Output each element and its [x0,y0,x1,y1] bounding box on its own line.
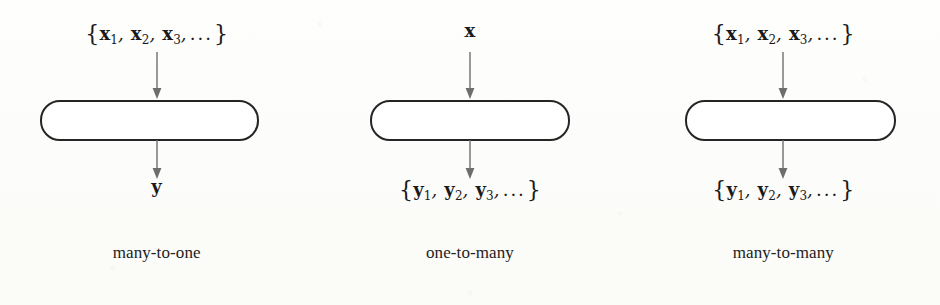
panel-caption: many-to-one [113,243,201,263]
input-label: x [465,22,476,40]
panel-one-to-many: x {y1, y2, y3,...} one-to-many [313,0,626,305]
input-label: {x1, x2, x3,...} [712,22,855,46]
arrow-down-icon-input [462,52,478,100]
panel-caption: many-to-many [733,243,834,263]
panel-many-to-many: {x1, x2, x3,...} {y1, y2, y3,...} many-t… [627,0,940,305]
output-label: {y1, y2, y3,...} [399,178,541,202]
processing-unit-box [685,100,896,141]
panel-caption: one-to-many [426,243,514,263]
processing-unit-box [370,100,570,141]
output-label: {y1, y2, y3,...} [712,178,854,202]
arrow-down-icon-input [149,52,165,100]
arrow-down-icon-output [775,140,791,180]
arrow-down-icon-input [775,52,791,100]
arrow-down-icon-output [149,140,165,180]
panel-many-to-one: {x1, x2, x3,...} y many-to-one [0,0,313,305]
arrow-down-icon-output [462,140,478,180]
output-label: y [151,178,162,196]
sequence-mapping-figure: {x1, x2, x3,...} y many-to-one x {y1, y2… [0,0,940,305]
input-label: {x1, x2, x3,...} [85,22,228,46]
processing-unit-box [40,100,259,141]
